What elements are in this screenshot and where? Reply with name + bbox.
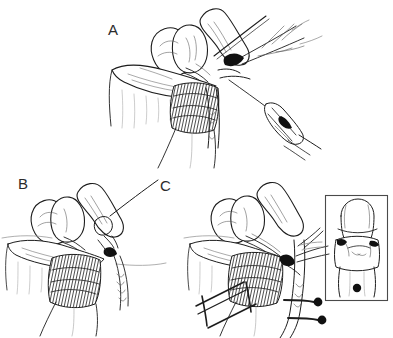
inset-marker-dot: [353, 284, 361, 292]
vessel-pair-c: [280, 228, 329, 338]
horizon-line-b-right: [116, 263, 166, 265]
lower-tissue-c: [220, 302, 256, 336]
shaded-tubular-structure-b: [48, 254, 101, 307]
inset-dome-rim: [338, 229, 377, 233]
illustration-artwork: [0, 0, 393, 338]
panel-c-artwork: [184, 182, 329, 338]
inset-panel: [300, 196, 388, 301]
branching-duct-tree-a: [240, 20, 322, 64]
shaded-tubular-structure-c: [228, 252, 283, 306]
horizon-line-b: [2, 236, 52, 238]
suture-strand-b: [110, 180, 158, 216]
suture-tails-b: [114, 256, 128, 310]
tissue-flap-a: [109, 65, 216, 128]
organ-neck-a: [182, 64, 210, 92]
pin-head-lower: [318, 316, 327, 325]
retracting-probe-a: [214, 16, 269, 59]
pin-head-upper: [314, 298, 323, 307]
inset-leader-upper: [300, 242, 322, 245]
inset-leader-lower: [302, 247, 322, 250]
inset-dome: [341, 199, 374, 240]
lobed-organ-c: [211, 182, 303, 243]
tissue-flap-c: [188, 240, 286, 294]
lobed-organ-a: [151, 9, 249, 75]
clipped-junction-a: [218, 54, 250, 79]
clip-applier-instrument-a: [229, 80, 321, 160]
inset-border: [326, 196, 388, 301]
lower-tissue-a: [158, 128, 216, 168]
inset-trunk-left: [339, 267, 341, 297]
panel-label-c: C: [160, 178, 171, 193]
pin-lower-c: [288, 316, 326, 325]
vessel-column-a: [206, 88, 219, 148]
figure-root: A B C: [0, 0, 393, 338]
panel-label-b: B: [18, 176, 28, 191]
panel-label-a: A: [108, 22, 118, 37]
tissue-flap-b: [6, 240, 104, 294]
organ-neck-c: [242, 234, 280, 266]
horizon-line-c: [184, 236, 234, 238]
inset-body: [335, 236, 380, 271]
ladder-retractor-c: [196, 282, 256, 328]
dark-knot-c: [280, 254, 300, 275]
organ-neck-b: [60, 237, 85, 260]
lower-tissue-b: [40, 302, 98, 336]
inset-trunk-right: [374, 267, 376, 297]
shaded-tubular-structure-a: [170, 83, 219, 133]
panel-a-artwork: [109, 9, 322, 168]
lobed-organ-b: [31, 183, 123, 244]
inset-suture-line: [348, 246, 370, 248]
pin-upper-c: [284, 298, 322, 307]
panel-b-artwork: [2, 180, 166, 336]
suture-loop-b: [94, 216, 118, 257]
